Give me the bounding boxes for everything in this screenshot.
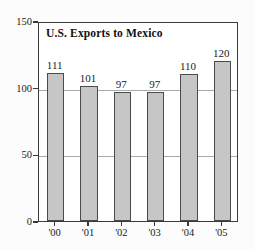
x-tick-mark xyxy=(121,222,123,226)
x-tick-mark xyxy=(54,222,56,226)
y-tick-label: 50 xyxy=(6,149,32,160)
bar xyxy=(180,74,197,221)
bar-value-label: 97 xyxy=(139,79,171,90)
bar-chart: U.S. Exports to Mexico 050100150 $ billi… xyxy=(0,0,255,250)
bar-value-label: 111 xyxy=(39,60,71,71)
bar-value-label: 97 xyxy=(105,79,137,90)
x-tick-mark xyxy=(187,222,189,226)
x-tick-mark xyxy=(87,222,89,226)
bar xyxy=(80,86,97,221)
x-tick-mark xyxy=(154,222,156,226)
bar-value-label: 120 xyxy=(205,48,237,59)
x-tick-label: '04 xyxy=(172,227,204,238)
bar xyxy=(114,92,131,221)
y-tick-label: 100 xyxy=(6,83,32,94)
y-tick-mark xyxy=(33,221,38,223)
bar xyxy=(214,61,231,221)
x-tick-mark xyxy=(221,222,223,226)
x-tick-label: '05 xyxy=(205,227,237,238)
y-tick-label: 150 xyxy=(6,16,32,27)
x-tick-label: '03 xyxy=(139,227,171,238)
x-tick-label: '02 xyxy=(105,227,137,238)
bar xyxy=(47,73,64,221)
x-tick-label: '00 xyxy=(39,227,71,238)
y-tick-mark xyxy=(33,155,38,157)
y-tick-mark xyxy=(33,88,38,90)
y-tick-mark xyxy=(33,21,38,23)
bar xyxy=(147,92,164,221)
x-tick-label: '01 xyxy=(72,227,104,238)
bar-value-label: 110 xyxy=(172,61,204,72)
bar-value-label: 101 xyxy=(72,73,104,84)
y-tick-label: 0 xyxy=(6,216,32,227)
chart-title: U.S. Exports to Mexico xyxy=(46,27,163,39)
